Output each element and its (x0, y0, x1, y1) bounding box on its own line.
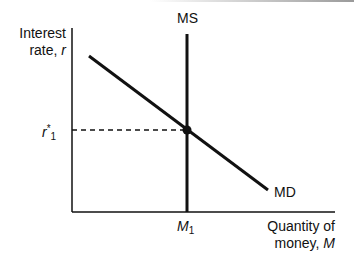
rate-subscript: 1 (51, 131, 57, 142)
md-label: MD (274, 184, 296, 201)
equilibrium-rate-label: r*1 (42, 120, 56, 145)
y-axis-label-line2: rate, (29, 42, 61, 58)
y-axis-variable: r (61, 42, 66, 58)
y-axis-label-line1: Interest (0, 25, 66, 42)
quantity-subscript: 1 (189, 225, 195, 236)
ms-label: MS (177, 10, 198, 27)
y-axis-label: Interest rate, r (0, 25, 66, 59)
equilibrium-quantity-label: M1 (177, 218, 194, 239)
x-axis-label: Quantity of money, M (240, 218, 335, 252)
x-axis-label-line1: Quantity of (240, 218, 335, 235)
quantity-symbol: M (177, 218, 189, 234)
x-axis-label-line2: money, (275, 235, 324, 251)
md-curve (89, 56, 268, 190)
x-axis-variable: M (323, 235, 335, 251)
equilibrium-point (183, 126, 192, 135)
